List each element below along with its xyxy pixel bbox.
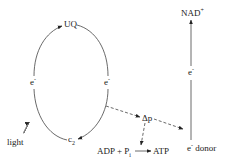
node-e-right: e- [104, 78, 110, 87]
node-e-donor: e- donor [187, 144, 216, 153]
node-nad: NAD+ [181, 9, 204, 18]
edge-e-right-to-c2 [78, 89, 108, 139]
node-uq: UQ [64, 20, 77, 29]
node-e-left: e- [30, 78, 36, 87]
node-light: light [7, 138, 24, 147]
edge-e-left-to-uq [34, 26, 62, 76]
edge-e-right-to-delta-p [106, 106, 140, 117]
edge-delta-p-to-donor [154, 119, 183, 129]
light-wavy-arrow [23, 123, 30, 134]
node-c2: c2 [68, 135, 75, 144]
node-adp: ADP + Pi [97, 147, 131, 156]
node-e-vertical: e- [188, 68, 194, 77]
edge-uq-to-e-right [77, 25, 108, 76]
edge-c2-to-e-left [34, 89, 67, 140]
edge-delta-p-to-atp [141, 123, 145, 145]
node-atp: ATP [153, 147, 169, 156]
node-delta-p: Δp [142, 114, 152, 123]
